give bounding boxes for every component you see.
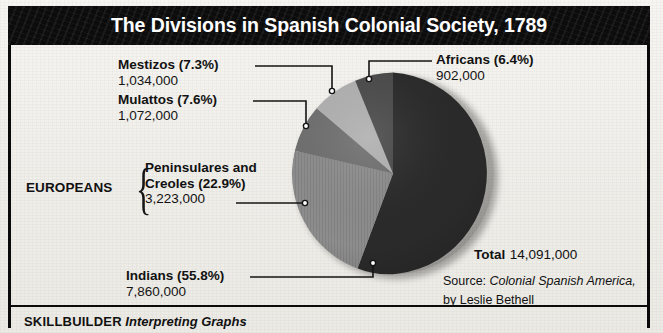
label-creoles-line: Creoles (22.9%) [145, 176, 257, 192]
footer-divider [11, 305, 647, 307]
pie-shading-overlay [292, 73, 494, 275]
label-mulattos-value: 1,072,000 [118, 108, 217, 124]
source-annotation: Source: Colonial Spanish America, by Les… [443, 270, 636, 308]
label-mestizos-heading: Mestizos (7.3%) [118, 57, 219, 73]
label-indians-heading: Indians (55.8%) [126, 268, 224, 284]
label-europeans-detail: Peninsulares and Creoles (22.9%) 3,223,0… [145, 160, 257, 207]
label-africans-value: 902,000 [436, 68, 534, 84]
label-africans-heading: Africans (6.4%) [436, 52, 534, 68]
label-indians-value: 7,860,000 [126, 284, 224, 300]
pie-svg [292, 72, 494, 275]
figure-title-bar: The Divisions in Spanish Colonial Societ… [8, 6, 650, 45]
label-indians: Indians (55.8%) 7,860,000 [126, 268, 224, 299]
pie-slices [292, 72, 494, 275]
source-title: Colonial Spanish America, [490, 274, 636, 288]
figure-page: The Divisions in Spanish Colonial Societ… [0, 0, 663, 333]
label-europeans-line1: Peninsulares and [145, 160, 257, 176]
label-europeans-group: EUROPEANS { Peninsulares and Creoles (22… [26, 160, 276, 222]
skillbuilder-tag: SKILLBUILDER [24, 314, 122, 329]
label-europeans-value: 3,223,000 [145, 191, 257, 207]
total-value: 14,091,000 [510, 247, 578, 262]
pie-chart [292, 72, 494, 275]
skillbuilder-caption: SKILLBUILDER Interpreting Graphs [24, 312, 247, 330]
page-title: The Divisions in Spanish Colonial Societ… [111, 14, 547, 37]
label-mulattos: Mulattos (7.6%) 1,072,000 [118, 92, 217, 123]
label-and-word: and [229, 160, 257, 175]
label-mestizos-value: 1,034,000 [118, 73, 219, 89]
source-line1: Source: Colonial Spanish America, [443, 270, 636, 289]
total-annotation: Total 14,091,000 [474, 245, 577, 263]
total-label: Total [474, 247, 505, 262]
label-mulattos-heading: Mulattos (7.6%) [118, 92, 217, 108]
label-mestizos: Mestizos (7.3%) 1,034,000 [118, 57, 219, 88]
skillbuilder-text: Interpreting Graphs [122, 314, 247, 329]
label-peninsulares: Peninsulares [145, 160, 229, 175]
label-europeans-heading: EUROPEANS [26, 180, 112, 195]
label-africans: Africans (6.4%) 902,000 [436, 52, 534, 83]
source-prefix: Source: [443, 274, 490, 288]
